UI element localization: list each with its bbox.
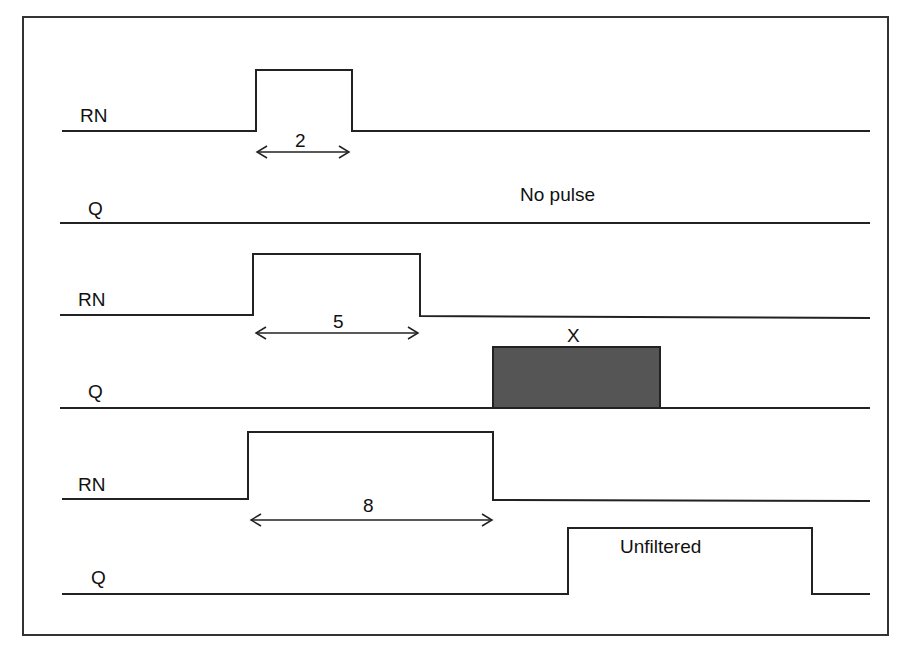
waveform-rn-1	[62, 70, 870, 131]
pulse-width-label-2: 5	[333, 311, 344, 332]
waveform-rn-2	[60, 254, 870, 318]
waveform-q-3	[62, 528, 870, 594]
signal-label-rn-3: RN	[78, 474, 105, 495]
pulse-width-label-1: 2	[295, 130, 306, 151]
pulse-width-label-3: 8	[363, 495, 374, 516]
unknown-state-box	[493, 347, 660, 408]
timing-diagram: RN 2 Q No pulse RN 5 Q X RN 8 Q Unfilter…	[0, 0, 907, 654]
annotation-no-pulse: No pulse	[520, 184, 595, 205]
signal-label-q-1: Q	[88, 198, 103, 219]
annotation-x: X	[567, 325, 580, 346]
annotation-unfiltered: Unfiltered	[620, 536, 701, 557]
signal-label-q-2: Q	[88, 381, 103, 402]
waveform-rn-3	[62, 432, 870, 501]
frame	[23, 17, 888, 635]
signal-label-q-3: Q	[91, 567, 106, 588]
signal-label-rn-2: RN	[78, 289, 105, 310]
signal-label-rn-1: RN	[80, 105, 107, 126]
